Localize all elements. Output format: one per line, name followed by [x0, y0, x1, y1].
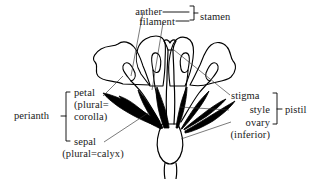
label-sepal-plural: (plural=calyx)	[38, 148, 148, 160]
leader-line-stigma	[174, 50, 230, 95]
ovary-shape	[157, 124, 183, 164]
leader-line-filament	[152, 23, 163, 90]
label-petal-plural-line1: (plural=	[74, 99, 109, 111]
flower-diagram-figure: anther filament stamen perianth petal (p…	[0, 0, 321, 179]
label-ovary: ovary	[206, 117, 270, 129]
label-petal: petal	[74, 87, 95, 99]
pistil-bracket	[273, 93, 282, 124]
leader-line-petal	[103, 76, 123, 96]
anther-right	[206, 63, 218, 81]
leader-line-sepal	[104, 113, 148, 142]
label-petal-plural-line2: corolla)	[74, 111, 107, 123]
label-perianth: perianth	[14, 110, 49, 122]
label-stamen: stamen	[200, 11, 230, 23]
ovary-group	[157, 124, 183, 179]
petal-right-mid-shape	[169, 37, 194, 86]
pedicel-stem	[164, 163, 177, 179]
anther-left	[123, 63, 135, 81]
petals-group	[94, 36, 236, 86]
petal-right-shape	[190, 43, 235, 86]
perianth-bracket	[61, 92, 70, 141]
style-shape	[166, 50, 175, 124]
anther-left-inner	[152, 53, 161, 73]
label-stigma: stigma	[231, 90, 260, 102]
label-style: style	[206, 104, 270, 116]
stamen-bracket	[190, 6, 198, 20]
label-sepal: sepal	[74, 136, 96, 148]
petal-left-shape	[94, 42, 150, 85]
label-pistil: pistil	[285, 104, 307, 116]
label-ovary-note: (inferior)	[202, 129, 270, 141]
label-filament: filament	[110, 16, 175, 28]
